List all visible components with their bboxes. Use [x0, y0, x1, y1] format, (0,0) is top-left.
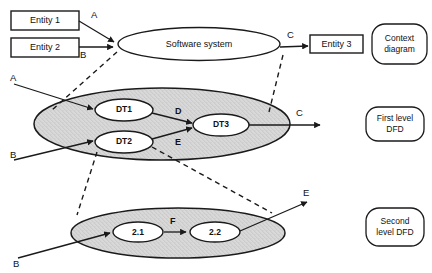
entity-1-label: Entity 1 — [11, 15, 79, 25]
process-2-1-label: 2.1 — [110, 228, 166, 238]
flow-ctx-a-line — [79, 21, 114, 42]
refine-link-first-left — [77, 152, 97, 215]
entity-2-label: Entity 2 — [11, 42, 79, 52]
legend-context-line2: diagram — [372, 44, 427, 54]
second-level-boundary-ellipse — [71, 208, 285, 258]
entity-3-label: Entity 3 — [310, 39, 363, 49]
legend-second-level-line2: level DFD — [366, 227, 424, 237]
flow-l1-c-label: C — [296, 108, 303, 119]
flow-l1-d-label: D — [175, 106, 182, 116]
first-level-boundary-ellipse — [34, 88, 290, 160]
process-2-2-label: 2.2 — [187, 228, 243, 238]
flow-ctx-b-label: B — [80, 50, 86, 61]
process-dt1-label: DT1 — [95, 105, 153, 115]
flow-l1-a-label: A — [10, 73, 16, 84]
flow-l2-f-label: F — [170, 216, 176, 226]
legend-second-level-line1: Second — [366, 216, 424, 226]
process-dt2-label: DT2 — [95, 137, 153, 147]
flow-l1-b-label: B — [10, 150, 16, 161]
legend-context-line1: Context — [372, 33, 427, 43]
flow-l1-e-label: E — [175, 137, 181, 147]
flow-l2-e-label: E — [303, 188, 309, 199]
process-dt3-label: DT3 — [193, 120, 249, 130]
dfd-levelling-diagram: Entity 1 Entity 2 Entity 3 Software syst… — [0, 0, 432, 273]
refine-link-context-right — [269, 55, 283, 112]
flow-ctx-a-label: A — [91, 10, 97, 21]
legend-first-level-line1: First level — [366, 113, 424, 123]
flow-ctx-c-label: C — [287, 30, 294, 41]
legend-first-level-line2: DFD — [366, 124, 424, 134]
flow-l2-b-label: B — [13, 259, 19, 270]
software-system-label: Software system — [119, 39, 279, 49]
flow-ctx-c-line — [280, 46, 308, 47]
